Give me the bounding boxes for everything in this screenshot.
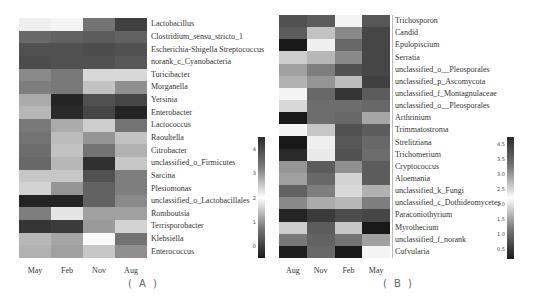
separator-line	[392, 15, 393, 258]
heatmap-cell	[115, 170, 147, 183]
heatmap-cell	[307, 149, 335, 161]
heatmap-cell	[279, 27, 307, 39]
row-label: unclassified_o_Lactobacillales	[151, 195, 250, 207]
row-label: unclassified_f_Montagnulaceae	[395, 88, 497, 100]
heatmap-cell	[19, 69, 51, 82]
heatmap-cell	[279, 112, 307, 124]
heatmap-cell	[362, 185, 390, 197]
heatmap-cell	[115, 132, 147, 145]
row-label: Klebsiella	[151, 233, 183, 245]
colorbar-tick-label: 2	[242, 195, 256, 201]
heatmap-cell	[19, 182, 51, 195]
heatmap-cell	[279, 234, 307, 246]
row-label: Myrothecium	[395, 222, 439, 234]
heatmap-cell	[115, 144, 147, 157]
heatmap-cell	[19, 56, 51, 69]
heatmap-cell	[335, 197, 363, 209]
column-label: Aug	[279, 266, 307, 275]
heatmap-cell	[362, 161, 390, 173]
heatmap-cell	[335, 76, 363, 88]
heatmap-cell	[307, 112, 335, 124]
row-label: Cryptococcus	[395, 161, 439, 173]
heatmap-cell	[307, 234, 335, 246]
heatmap-cell	[279, 39, 307, 51]
heatmap-cell	[115, 94, 147, 107]
heatmap-cell	[51, 233, 83, 246]
heatmap-cell	[51, 182, 83, 195]
heatmap-cell	[51, 157, 83, 170]
heatmap-cell	[51, 207, 83, 220]
row-label: Strelitziana	[395, 137, 431, 149]
heatmap-cell	[115, 182, 147, 195]
colorbar-tick-label: 3	[242, 170, 256, 176]
row-label: Morganella	[151, 81, 188, 93]
row-label: unclassified_o__Pleosporales	[395, 64, 490, 76]
colorbar-tick-label: 4.5	[491, 141, 505, 147]
row-label: Sarcina	[151, 170, 175, 182]
colorbar	[507, 137, 514, 259]
heatmap-cell	[335, 173, 363, 185]
heatmap-cell	[19, 245, 51, 258]
heatmap-cell	[115, 207, 147, 220]
heatmap-cell	[83, 245, 115, 258]
heatmap-cell	[83, 119, 115, 132]
panel-caption: ( A )	[128, 278, 159, 289]
heatmap-cell	[83, 182, 115, 195]
heatmap-cell	[362, 27, 390, 39]
row-label: Clostridium_sensu_stricto_1	[151, 31, 243, 43]
heatmap-cell	[19, 144, 51, 157]
heatmap-cell	[83, 144, 115, 157]
heatmap-cell	[51, 220, 83, 233]
heatmap-cell	[362, 222, 390, 234]
heatmap-cell	[307, 15, 335, 27]
colorbar-tick-label: 2.0	[491, 201, 505, 207]
heatmap-cell	[19, 195, 51, 208]
heatmap-cell	[307, 197, 335, 209]
heatmap-cell	[19, 233, 51, 246]
heatmap-cell	[19, 220, 51, 233]
heatmap-cell	[279, 209, 307, 221]
heatmap-cell	[307, 136, 335, 148]
colorbar-tick-label: 0	[242, 243, 256, 249]
column-label: Aug	[115, 266, 147, 275]
heatmap-cell	[362, 149, 390, 161]
heatmap-cell	[362, 76, 390, 88]
heatmap-cell	[335, 246, 363, 258]
heatmap-cell	[362, 246, 390, 258]
heatmap-cell	[83, 157, 115, 170]
heatmap-cell	[115, 220, 147, 233]
heatmap-cell	[307, 100, 335, 112]
row-label: unclassified_p_Ascomycota	[395, 76, 485, 88]
heatmap-cell	[115, 106, 147, 119]
heatmap-cell	[115, 43, 147, 56]
heatmap-cell	[279, 51, 307, 63]
heatmap-cell	[19, 119, 51, 132]
heatmap-cell	[83, 220, 115, 233]
heatmap-cell	[307, 209, 335, 221]
heatmap-cell	[83, 69, 115, 82]
heatmap-cell	[362, 112, 390, 124]
row-label: Enterococcus	[151, 246, 194, 258]
column-label: Feb	[335, 266, 363, 275]
row-label: Yersinia	[151, 94, 177, 106]
heatmap-cell	[51, 31, 83, 44]
row-label: unclassified_c_Dothideomycetes	[395, 197, 501, 209]
heatmap-cell	[115, 69, 147, 82]
row-label: Enterobacter	[151, 107, 192, 119]
panel-caption: ( B )	[383, 278, 414, 289]
heatmap-cell	[19, 43, 51, 56]
heatmap-cell	[279, 124, 307, 136]
heatmap-cell	[307, 88, 335, 100]
column-label: May	[19, 266, 51, 275]
column-label: Nov	[83, 266, 115, 275]
heatmap-cell	[335, 112, 363, 124]
heatmap-cell	[83, 170, 115, 183]
heatmap-cell	[335, 234, 363, 246]
heatmap-cell	[51, 132, 83, 145]
heatmap-cell	[19, 170, 51, 183]
heatmap-cell	[83, 56, 115, 69]
heatmap-cell	[335, 222, 363, 234]
heatmap-cell	[307, 173, 335, 185]
heatmap-cell	[362, 64, 390, 76]
heatmap-cell	[279, 100, 307, 112]
